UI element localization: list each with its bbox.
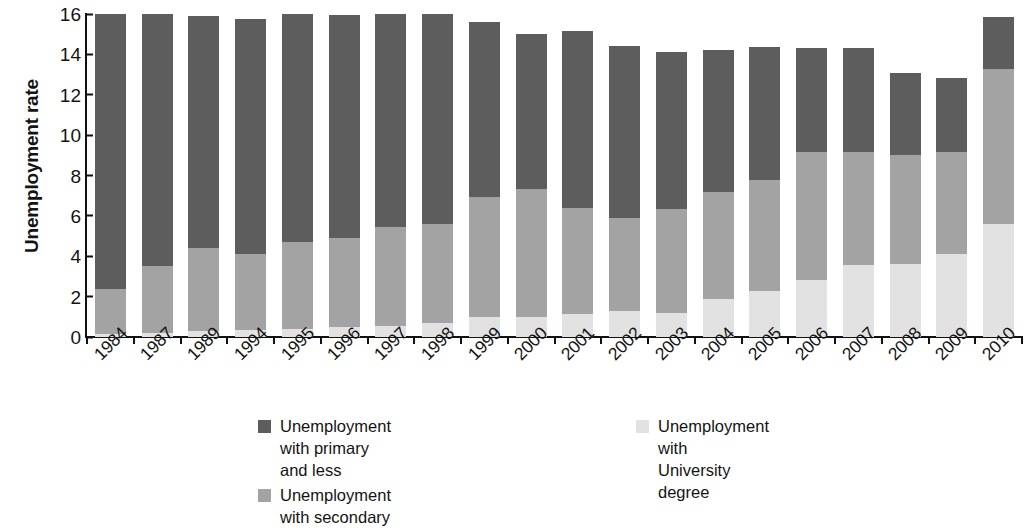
bar-segment xyxy=(890,155,921,264)
bar-1994[interactable] xyxy=(235,19,266,337)
y-axis-title: Unemployment rate xyxy=(21,16,43,316)
bar-2005[interactable] xyxy=(749,47,780,337)
bar-segment xyxy=(142,14,173,266)
legend-swatch-icon xyxy=(258,420,271,433)
bar-segment xyxy=(516,189,547,317)
y-axis-tick-label: 2 xyxy=(70,287,86,306)
x-axis-tick-mark xyxy=(273,336,275,344)
y-axis-tick-mark xyxy=(86,255,93,257)
legend-item[interactable]: Unemployment with primary and less xyxy=(258,416,391,482)
bar-segment xyxy=(562,31,593,208)
bar-segment xyxy=(375,227,406,326)
legend-item[interactable]: Unemployment with University degree xyxy=(636,416,769,504)
bar-segment xyxy=(188,248,219,331)
bar-2009[interactable] xyxy=(936,78,967,337)
bar-segment xyxy=(703,50,734,191)
y-axis-tick-label: 16 xyxy=(60,5,86,24)
bar-segment xyxy=(749,47,780,179)
bar-segment xyxy=(983,224,1014,337)
bar-segment xyxy=(843,265,874,337)
bar-segment xyxy=(796,48,827,152)
y-axis-tick: 12 xyxy=(60,85,86,104)
bar-segment xyxy=(843,152,874,265)
bar-segment xyxy=(562,208,593,314)
bar-segment xyxy=(890,264,921,337)
x-axis-tick-mark xyxy=(133,336,135,344)
bar-segment xyxy=(983,69,1014,224)
y-axis-tick-mark xyxy=(86,53,93,55)
y-axis-tick: 14 xyxy=(60,45,86,64)
bar-segment xyxy=(983,17,1014,68)
x-axis-tick-mark xyxy=(787,336,789,344)
bar-2003[interactable] xyxy=(656,52,687,337)
bar-2010[interactable] xyxy=(983,17,1014,337)
bar-segment xyxy=(142,266,173,333)
x-axis-tick-mark xyxy=(600,336,602,344)
bar-segment xyxy=(329,15,360,238)
x-axis-tick-mark xyxy=(974,336,976,344)
x-axis-tick-mark xyxy=(694,336,696,344)
bar-segment xyxy=(516,34,547,188)
y-axis-tick-mark xyxy=(86,296,93,298)
bar-segment xyxy=(936,152,967,254)
legend-swatch-icon xyxy=(636,420,649,433)
bar-segment xyxy=(890,73,921,156)
bar-2008[interactable] xyxy=(890,73,921,337)
bar-segment xyxy=(282,242,313,329)
x-axis-tick-mark xyxy=(460,336,462,344)
bar-segment xyxy=(95,14,126,289)
bar-1997[interactable] xyxy=(375,14,406,337)
legend-column-left: Unemployment with primary and lessUnempl… xyxy=(258,416,391,530)
bar-2007[interactable] xyxy=(843,48,874,337)
bar-1987[interactable] xyxy=(142,14,173,337)
bar-2002[interactable] xyxy=(609,46,640,337)
y-axis-tick-label: 14 xyxy=(60,45,86,64)
bar-segment xyxy=(609,46,640,218)
bar-2001[interactable] xyxy=(562,31,593,337)
x-axis-tick-mark xyxy=(647,336,649,344)
bar-1995[interactable] xyxy=(282,14,313,337)
bar-segment xyxy=(422,224,453,323)
y-axis-tick-mark xyxy=(86,134,93,136)
y-axis-tick-label: 6 xyxy=(70,206,86,225)
legend-column-right: Unemployment with University degree xyxy=(636,416,769,507)
bar-segment xyxy=(469,22,500,197)
bar-segment xyxy=(703,192,734,299)
x-axis-tick-mark xyxy=(1021,336,1023,344)
bar-1996[interactable] xyxy=(329,15,360,337)
legend-item[interactable]: Unemployment with secondary xyxy=(258,485,391,529)
y-axis-tick-label: 8 xyxy=(70,166,86,185)
y-axis-tick: 6 xyxy=(70,206,86,225)
bar-segment xyxy=(235,254,266,330)
y-axis-tick: 0 xyxy=(70,328,86,347)
bar-1984[interactable] xyxy=(95,14,126,337)
bar-segment xyxy=(422,14,453,224)
legend-item-label: Unemployment with primary and less xyxy=(280,416,391,482)
bar-segment xyxy=(375,14,406,227)
bar-2004[interactable] xyxy=(703,50,734,337)
y-axis-tick-label: 0 xyxy=(70,328,86,347)
y-axis-tick-mark xyxy=(86,215,93,217)
y-axis-tick: 4 xyxy=(70,247,86,266)
bar-1989[interactable] xyxy=(188,16,219,337)
y-axis-tick-label: 12 xyxy=(60,85,86,104)
bar-2000[interactable] xyxy=(516,34,547,337)
y-axis-tick-mark xyxy=(86,175,93,177)
bar-segment xyxy=(936,78,967,153)
y-axis-tick: 8 xyxy=(70,166,86,185)
bar-segment xyxy=(936,254,967,337)
bar-2006[interactable] xyxy=(796,48,827,337)
bar-segment xyxy=(749,180,780,291)
bar-segment xyxy=(656,52,687,208)
bar-segment xyxy=(796,152,827,280)
x-axis-tick-mark xyxy=(928,336,930,344)
x-axis-tick-mark xyxy=(554,336,556,344)
bar-segment xyxy=(235,19,266,254)
legend-item-label: Unemployment with secondary xyxy=(280,485,391,529)
y-axis-tick: 2 xyxy=(70,287,86,306)
bar-segment xyxy=(282,14,313,242)
bar-1999[interactable] xyxy=(469,22,500,337)
x-axis-tick-mark xyxy=(320,336,322,344)
bar-1998[interactable] xyxy=(422,14,453,337)
